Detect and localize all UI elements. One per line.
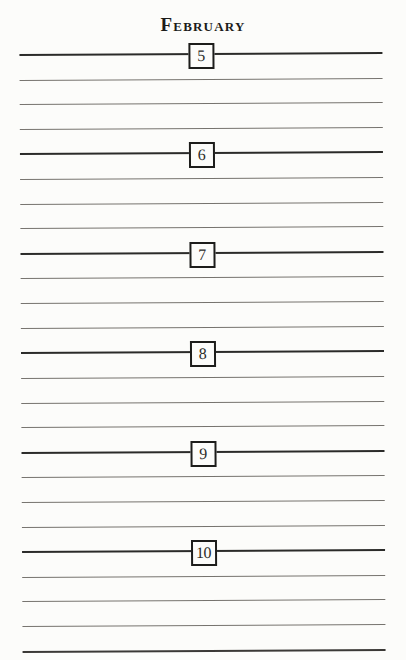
day-rule: 5 xyxy=(19,52,382,80)
day-rule: 9 xyxy=(22,450,385,478)
day-number-box: 8 xyxy=(189,341,215,367)
writing-line xyxy=(20,78,383,105)
ruled-lines: 5678910 xyxy=(19,52,385,653)
day-rule: 10 xyxy=(22,549,385,577)
writing-line xyxy=(22,599,385,626)
writing-line xyxy=(22,575,385,602)
day-number: 8 xyxy=(199,346,207,362)
day-section: 9 xyxy=(22,450,386,551)
writing-line xyxy=(21,301,384,328)
day-section: 10 xyxy=(22,549,386,650)
day-number-box: 9 xyxy=(190,441,216,467)
writing-line xyxy=(21,277,384,304)
day-rule: 6 xyxy=(20,151,383,179)
day-section: 5 xyxy=(19,52,383,153)
day-number-box: 5 xyxy=(188,43,214,69)
month-title: February xyxy=(0,14,406,36)
diary-page: February 5678910 xyxy=(0,0,406,660)
writing-line xyxy=(20,102,383,129)
day-number-box: 7 xyxy=(189,242,215,268)
writing-line xyxy=(20,202,383,229)
writing-line xyxy=(22,624,385,651)
day-section: 7 xyxy=(20,251,384,352)
day-number-box: 10 xyxy=(190,540,216,566)
day-rule: 8 xyxy=(21,350,384,378)
day-number: 10 xyxy=(196,545,211,561)
writing-line xyxy=(21,376,384,403)
day-number: 6 xyxy=(198,147,206,163)
writing-line xyxy=(21,401,384,428)
day-number: 7 xyxy=(198,247,206,263)
day-number: 5 xyxy=(197,48,205,64)
day-section: 8 xyxy=(21,350,385,451)
writing-line xyxy=(22,500,385,527)
day-section: 6 xyxy=(20,151,384,252)
day-rule: 7 xyxy=(20,251,383,279)
day-number: 9 xyxy=(199,446,207,462)
writing-line xyxy=(20,177,383,204)
writing-line xyxy=(22,475,385,502)
day-number-box: 6 xyxy=(188,142,214,168)
